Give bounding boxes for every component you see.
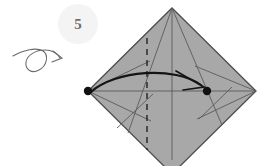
right-reference-dot xyxy=(203,87,211,95)
step-number-badge xyxy=(58,4,98,44)
turn-over-arrow-icon xyxy=(13,49,62,71)
origami-diagram-canvas: 5 xyxy=(0,0,266,166)
left-reference-dot xyxy=(84,87,92,95)
origami-diagram-svg xyxy=(0,0,266,166)
